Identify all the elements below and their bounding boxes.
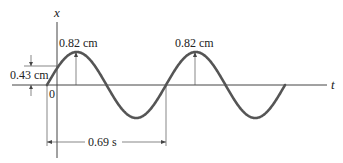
origin-label: 0 bbox=[49, 87, 55, 101]
arrow-head-left bbox=[47, 140, 52, 144]
arrow-head-right bbox=[161, 140, 166, 144]
t-axis-label: t bbox=[331, 77, 335, 92]
arrow-head-up bbox=[29, 85, 33, 89]
initial-displacement-label: 0.43 cm bbox=[10, 68, 49, 82]
amplitude-label-1: 0.82 cm bbox=[59, 36, 98, 50]
x-axis-label: x bbox=[53, 5, 60, 20]
amplitude-label-2: 0.82 cm bbox=[175, 36, 214, 50]
oscillation-diagram: 0.43 cm 0.82 cm 0.82 cm 0.69 s x t 0 bbox=[0, 0, 343, 163]
period-label: 0.69 s bbox=[88, 135, 117, 149]
arrow-head-down bbox=[29, 62, 33, 66]
